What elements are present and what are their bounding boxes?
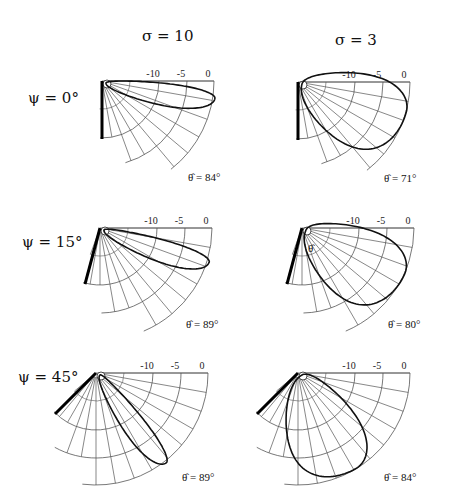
tick-label: -10 xyxy=(342,69,355,80)
tick-label: -5 xyxy=(171,360,179,371)
range-ring xyxy=(82,373,208,485)
tick-label: -5 xyxy=(373,360,381,371)
tick-label: 0 xyxy=(206,68,211,79)
tick-label: 0 xyxy=(402,69,407,80)
radial-line xyxy=(103,85,131,161)
radial-line xyxy=(300,85,341,155)
radial-line xyxy=(81,377,95,457)
theta-hat-label: θ̂ = 89° xyxy=(182,471,214,483)
radial-line xyxy=(299,86,327,162)
polar-panel-psi0-sigma3: -10-50θ̂ = 71° xyxy=(296,69,417,184)
radiation-lobe xyxy=(301,73,407,150)
range-ring xyxy=(285,228,359,285)
theta-hat-inner-label: θ̂ xyxy=(308,242,315,254)
polar-panel-psi45-sigma3: -10-50θ̂ = 84° xyxy=(256,360,416,485)
tick-label: -5 xyxy=(175,215,183,226)
theta-hat-label: θ̂ = 84° xyxy=(188,171,220,183)
radial-line xyxy=(299,86,308,138)
polar-panel-psi15-sigma3: -10-50θ̂ = 80°θ̂ xyxy=(285,215,420,331)
theta-hat-label: θ̂ = 84° xyxy=(384,471,416,483)
polar-panel-psi45-sigma10: -10-50θ̂ = 89° xyxy=(54,360,214,485)
radial-line xyxy=(101,232,115,312)
theta-hat-label: θ̂ = 71° xyxy=(384,172,416,184)
radiation-lobe xyxy=(99,375,167,464)
tick-label: 0 xyxy=(402,360,407,371)
theta-hat-label: θ̂ = 80° xyxy=(388,318,420,330)
tick-label: -10 xyxy=(144,215,157,226)
radiation-lobe xyxy=(106,81,215,108)
tick-label: 0 xyxy=(406,215,411,226)
tick-label: -5 xyxy=(177,68,185,79)
range-ring xyxy=(346,228,414,331)
theta-hat-label: θ̂ = 89° xyxy=(186,318,218,330)
polar-panel-psi0-sigma10: -10-50θ̂ = 84° xyxy=(100,68,221,183)
radial-line xyxy=(101,232,129,308)
radial-line xyxy=(301,85,370,168)
polar-panel-psi15-sigma10: -10-50θ̂ = 89° xyxy=(83,215,218,331)
radial-line xyxy=(105,84,174,167)
tick-label: 0 xyxy=(200,360,205,371)
tick-label: -10 xyxy=(342,360,355,371)
radiation-lobe xyxy=(304,224,406,305)
radial-line xyxy=(103,85,112,137)
polar-diagram-grid: -10-50θ̂ = 84°-10-50θ̂ = 71°-10-50θ̂ = 8… xyxy=(0,0,454,503)
tick-label: 0 xyxy=(204,215,209,226)
tick-label: -5 xyxy=(377,215,385,226)
tick-label: -10 xyxy=(146,68,159,79)
tick-label: -10 xyxy=(140,360,153,371)
